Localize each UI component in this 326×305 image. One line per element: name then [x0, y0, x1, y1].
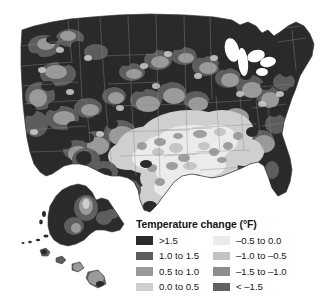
legend-swatch-icon: [136, 267, 153, 276]
legend-item: –1.0 to –0.5: [213, 252, 287, 261]
legend-swatch-icon: [136, 252, 153, 261]
legend-item-label: >1.5: [159, 236, 178, 246]
legend-columns: >1.5 1.0 to 1.5 0.5 to 1.0 0.0 to 0.5: [136, 236, 322, 292]
legend-swatch-icon: [213, 267, 230, 276]
legend: Temperature change (°F) >1.5 1.0 to 1.5 …: [136, 218, 322, 292]
legend-item: >1.5: [136, 236, 199, 245]
legend-swatch-icon: [136, 283, 153, 292]
legend-item: < –1.5: [213, 283, 287, 292]
legend-item-label: –1.5 to –1.0: [236, 267, 287, 277]
legend-item: –1.5 to –1.0: [213, 267, 287, 276]
legend-column-warming: >1.5 1.0 to 1.5 0.5 to 1.0 0.0 to 0.5: [136, 236, 199, 292]
temperature-change-map-figure: Temperature change (°F) >1.5 1.0 to 1.5 …: [0, 0, 326, 305]
legend-item: 0.5 to 1.0: [136, 267, 199, 276]
legend-item-label: < –1.5: [236, 282, 263, 292]
legend-column-cooling: –0.5 to 0.0 –1.0 to –0.5 –1.5 to –1.0 < …: [213, 236, 287, 292]
legend-swatch-icon: [213, 252, 230, 261]
legend-item: 0.0 to 0.5: [136, 283, 199, 292]
legend-swatch-icon: [213, 236, 230, 245]
legend-item: –0.5 to 0.0: [213, 236, 287, 245]
legend-item-label: –0.5 to 0.0: [236, 236, 281, 246]
legend-item-label: 0.0 to 0.5: [159, 282, 199, 292]
legend-title: Temperature change (°F): [136, 218, 322, 230]
legend-swatch-icon: [136, 236, 153, 245]
legend-item-label: 1.0 to 1.5: [159, 251, 199, 261]
legend-swatch-icon: [213, 283, 230, 292]
legend-item: 1.0 to 1.5: [136, 252, 199, 261]
legend-item-label: –1.0 to –0.5: [236, 251, 287, 261]
legend-item-label: 0.5 to 1.0: [159, 267, 199, 277]
alaska-choropleth: [40, 180, 140, 255]
